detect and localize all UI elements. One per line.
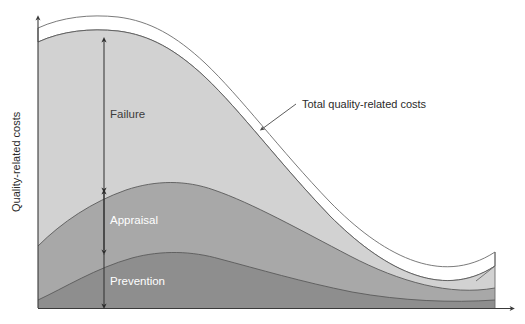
quality-cost-chart: Total quality-related costs Failure Appr…: [0, 0, 525, 324]
band-label-prevention: Prevention: [110, 275, 165, 287]
figure-canvas: Total quality-related costs Failure Appr…: [0, 0, 525, 324]
total-cost-label: Total quality-related costs: [302, 98, 427, 110]
y-axis-label: Quality-related costs: [10, 111, 22, 212]
leader-line: [262, 104, 296, 129]
band-label-failure: Failure: [110, 108, 145, 120]
band-label-appraisal: Appraisal: [110, 214, 158, 226]
total-cost-callout-leader: [262, 104, 296, 129]
